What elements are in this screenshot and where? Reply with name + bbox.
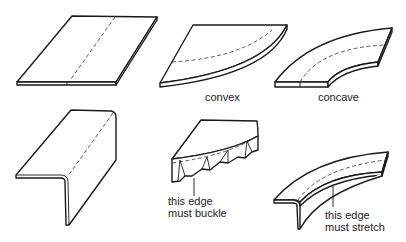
straight-angle (16, 110, 116, 225)
convex-label: convex (205, 91, 240, 103)
concave-plate (275, 28, 392, 87)
convex-plate (160, 25, 287, 87)
concave-label: concave (318, 91, 359, 103)
sheet-metal-diagram: convex concave this edge must buckle (0, 0, 406, 242)
buckle-annotation-line2: must buckle (168, 207, 227, 219)
buckle-annotation-line1: this edge (168, 195, 213, 207)
diagram-canvas: convex concave this edge must buckle (0, 0, 406, 242)
stretch-annotation-line2: must stretch (325, 221, 385, 233)
stretch-annotation-line1: this edge (325, 209, 370, 221)
convex-flange (172, 120, 258, 196)
flat-plate (17, 16, 157, 85)
